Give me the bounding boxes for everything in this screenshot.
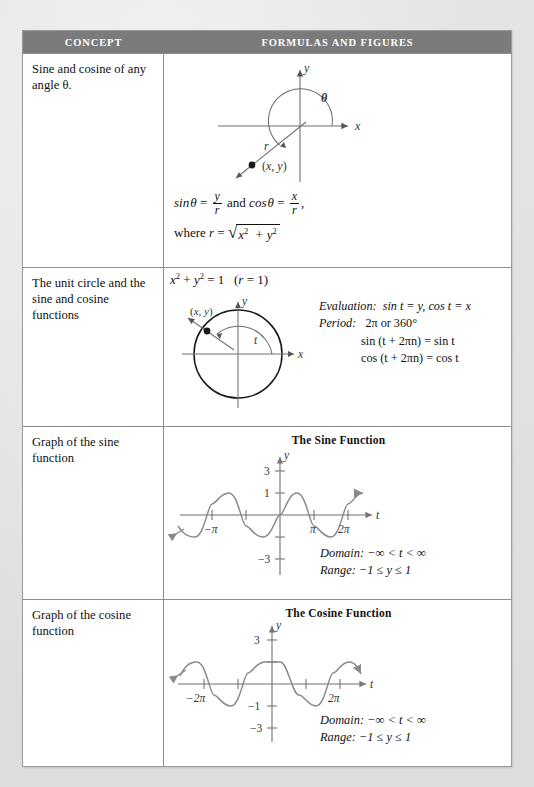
reference-table: CONCEPT FORMULAS AND FIGURES Sine and co… <box>22 30 512 767</box>
svg-text:2π: 2π <box>338 523 351 535</box>
unit-circle-equation: x2 + y2 = 1 (r = 1) <box>170 271 268 288</box>
row1-formula-sin-cos: sin θ = yr and cos θ = xr, <box>174 191 304 218</box>
identity-sin: sin (t + 2πn) = sin t <box>319 333 471 350</box>
concept-cell-4: Graph of the cosine function <box>23 600 164 766</box>
concept-cell-1: Sine and cosine of any angle θ. <box>23 54 164 267</box>
table-row: Sine and cosine of any angle θ. <box>23 53 511 267</box>
column-header-formulas: FORMULAS AND FIGURES <box>164 37 511 48</box>
cosine-domain: Domain: −∞ < t < ∞ <box>320 712 426 729</box>
svg-text:π: π <box>310 523 317 535</box>
evaluation-value: sin t = y, cos t = x <box>383 299 471 313</box>
svg-text:−3: −3 <box>258 553 270 565</box>
unit-circle-diagram: x y t (x, y) <box>168 292 318 412</box>
table-row: Graph of the cosine function The Cosine … <box>23 599 511 766</box>
svg-text:−3: −3 <box>250 722 262 734</box>
svg-text:−2π: −2π <box>186 692 207 704</box>
table-row: Graph of the sine function The Sine Func… <box>23 426 511 599</box>
page-canvas: CONCEPT FORMULAS AND FIGURES Sine and co… <box>0 0 534 787</box>
table-header-row: CONCEPT FORMULAS AND FIGURES <box>23 31 511 53</box>
cosine-range: Range: −1 ≤ y ≤ 1 <box>320 729 426 746</box>
svg-text:x: x <box>297 348 304 360</box>
svg-text:t: t <box>376 509 380 521</box>
evaluation-label: Evaluation: <box>319 299 377 313</box>
svg-text:r: r <box>264 139 269 153</box>
svg-text:y: y <box>275 619 282 632</box>
angle-in-standard-position-diagram: x y θ r (x, y) <box>180 58 480 188</box>
svg-text:−π: −π <box>204 523 219 535</box>
svg-text:θ: θ <box>321 91 328 105</box>
column-header-concept: CONCEPT <box>23 37 164 48</box>
figure-cell-4: The Cosine Function <box>164 600 511 766</box>
svg-text:3: 3 <box>254 634 260 646</box>
identity-cos: cos (t + 2πn) = cos t <box>319 350 471 367</box>
svg-text:2π: 2π <box>328 692 341 704</box>
concept-cell-3: Graph of the sine function <box>23 427 164 599</box>
period-value: 2π or 360° <box>365 316 417 330</box>
svg-text:(x, y): (x, y) <box>262 159 287 173</box>
figure-cell-1: x y θ r (x, y) sin θ = yr and cos θ = xr… <box>164 54 511 267</box>
svg-text:t: t <box>370 678 374 690</box>
svg-text:(x, y): (x, y) <box>190 305 213 318</box>
sine-graph-title: The Sine Function <box>174 434 503 446</box>
sine-domain: Domain: −∞ < t < ∞ <box>320 545 426 562</box>
svg-text:1: 1 <box>264 487 270 499</box>
svg-text:y: y <box>283 449 290 462</box>
concept-cell-2: The unit circle and the sine and cosine … <box>23 268 164 426</box>
row1-formula-r: where r = √x2 + y2 <box>174 224 280 243</box>
period-label: Period: <box>319 316 356 330</box>
svg-text:y: y <box>303 61 310 75</box>
svg-text:t: t <box>254 334 258 346</box>
svg-text:x: x <box>354 119 361 133</box>
table-row: The unit circle and the sine and cosine … <box>23 267 511 426</box>
figure-cell-3: The Sine Function <box>164 427 511 599</box>
cosine-domain-range: Domain: −∞ < t < ∞ Range: −1 ≤ y ≤ 1 <box>320 712 426 746</box>
svg-text:3: 3 <box>264 465 270 477</box>
svg-text:y: y <box>241 295 248 308</box>
figure-cell-2: x2 + y2 = 1 (r = 1) <box>164 268 511 426</box>
sine-domain-range: Domain: −∞ < t < ∞ Range: −1 ≤ y ≤ 1 <box>320 545 426 579</box>
evaluation-block: Evaluation: sin t = y, cos t = x Period:… <box>319 298 471 367</box>
svg-text:−1: −1 <box>248 700 260 712</box>
sine-range: Range: −1 ≤ y ≤ 1 <box>320 562 426 579</box>
